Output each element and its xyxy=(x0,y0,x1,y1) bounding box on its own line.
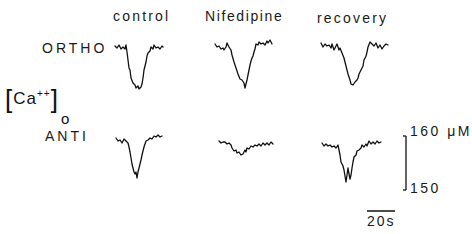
trace-ortho-nifedipine xyxy=(215,40,272,88)
y-scale-top-label: 160 μM xyxy=(410,123,472,139)
traces-canvas xyxy=(0,0,472,234)
y-scale-bar xyxy=(403,136,406,190)
trace-ortho-control xyxy=(115,45,163,89)
trace-anti-nifedipine xyxy=(219,141,273,155)
trace-anti-control xyxy=(116,135,162,178)
x-scale-label: 20s xyxy=(367,213,396,229)
trace-anti-recovery xyxy=(322,141,381,182)
y-scale-bottom-label: 150 xyxy=(410,180,441,196)
trace-ortho-recovery xyxy=(321,42,388,85)
